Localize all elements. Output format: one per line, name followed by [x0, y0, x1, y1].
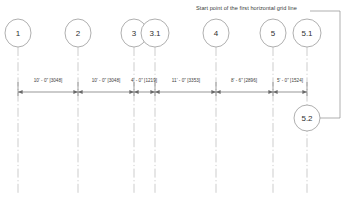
dimension-arrowhead — [211, 90, 216, 94]
dim-4-5-label: 8' - 6" [2896] — [231, 78, 257, 83]
dimension-arrowhead — [302, 90, 307, 94]
dim-1-2-label: 10' - 0" [3048] — [34, 78, 63, 83]
grid-lines-group — [18, 47, 307, 193]
dim-3-3.1-label: 4' - 0" [1219] — [131, 78, 157, 83]
grid-bubble-3-1-label: 3.1 — [149, 29, 160, 38]
start-point-note: Start point of the first horizontal grid… — [196, 5, 297, 11]
architectural-grid-drawing — [0, 0, 351, 201]
dim-3.1-4-label: 11' - 0" [3353] — [172, 78, 200, 83]
dimension-arrowhead — [155, 90, 160, 94]
dimension-line-group — [18, 82, 307, 96]
dimension-arrowhead — [73, 90, 78, 94]
grid-bubble-5-2-label: 5.2 — [301, 114, 312, 123]
dimension-arrowhead — [216, 90, 221, 94]
grid-bubble-4-label: 4 — [214, 29, 218, 38]
grid-bubble-1-label: 1 — [16, 29, 20, 38]
dim-5-5.1-label: 5' - 0" [1524] — [277, 78, 303, 83]
dimension-arrowhead — [268, 90, 273, 94]
dimension-arrowhead — [78, 90, 83, 94]
grid-bubble-5-1-label: 5.1 — [301, 29, 312, 38]
grid-bubble-5-label: 5 — [271, 29, 275, 38]
dimension-arrowhead — [273, 90, 278, 94]
grid-bubble-3-label: 3 — [132, 29, 136, 38]
grid-bubble-2-label: 2 — [76, 29, 80, 38]
dimension-arrowhead — [18, 90, 23, 94]
dimension-arrowhead — [150, 90, 155, 94]
dimension-arrowhead — [134, 90, 139, 94]
dimension-arrowhead — [129, 90, 134, 94]
drawing-canvas: Start point of the first horizontal grid… — [0, 0, 351, 201]
dim-2-3-label: 10' - 0" [3048] — [92, 78, 121, 83]
